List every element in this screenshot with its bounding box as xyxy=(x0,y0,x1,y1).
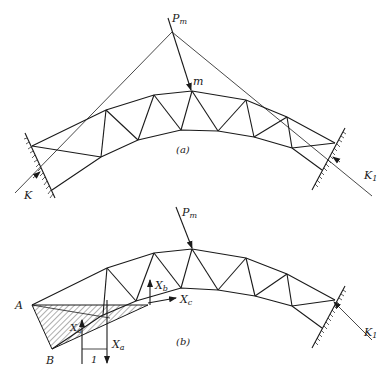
unit-dimension-label: 1 xyxy=(91,354,97,365)
k1-label-b: K1 xyxy=(363,326,377,340)
xb-label: Xb xyxy=(154,279,168,293)
k-label: K xyxy=(23,189,33,202)
k1-arrow xyxy=(333,157,340,162)
pm-arrow-a xyxy=(168,18,191,90)
k1-label-a: K1 xyxy=(363,169,377,183)
truss-arch-diagram: Pm m K K1 (a) xyxy=(0,0,386,377)
pm-label-b: Pm xyxy=(181,206,197,220)
right-support-b xyxy=(312,286,346,348)
hatched-region xyxy=(32,305,148,349)
point-a-label: A xyxy=(14,299,23,312)
k1-line xyxy=(172,32,372,196)
panel-a: Pm m K K1 (a) xyxy=(15,12,377,202)
k-line xyxy=(15,32,172,193)
bottom-chord-a xyxy=(52,130,322,190)
xc-label: Xc xyxy=(179,293,193,307)
caption-b: (b) xyxy=(176,336,190,347)
top-chord-a xyxy=(32,91,335,146)
right-support-a xyxy=(312,128,346,190)
xa-label: Xa xyxy=(111,338,125,352)
panel-b: Pm A B Xb Xc Xa Xa 1 K1 (b) xyxy=(14,206,377,367)
point-b-label: B xyxy=(45,354,54,367)
caption-a: (a) xyxy=(176,144,190,155)
pm-label-a: Pm xyxy=(171,12,187,26)
xc-arrow xyxy=(148,298,176,303)
node-m-label: m xyxy=(193,75,203,88)
